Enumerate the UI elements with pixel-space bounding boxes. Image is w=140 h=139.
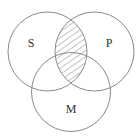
label-p: P — [106, 36, 113, 50]
label-m: M — [66, 102, 77, 116]
label-s: S — [28, 36, 35, 50]
venn-diagram: S P M — [0, 0, 140, 139]
